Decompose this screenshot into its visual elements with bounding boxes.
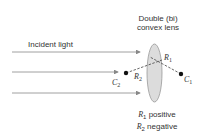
caption-line-2: R2 negative (124, 122, 190, 134)
title-line-1: Double (bi) (128, 14, 188, 23)
c1-label: C1 (184, 75, 192, 87)
c2-point (124, 71, 128, 75)
lens-diagram: Double (bi) convex lens Incident light R… (0, 0, 204, 140)
sign-caption: R1 positive R2 negative (124, 110, 190, 134)
r1-label: R1 (164, 53, 172, 65)
incident-light-label: Incident light (28, 40, 73, 49)
r2-label: R2 (134, 72, 142, 84)
caption-line-1: R1 positive (124, 110, 190, 122)
title-line-2: convex lens (128, 23, 188, 32)
c1-point (179, 72, 183, 76)
c2-label: C2 (112, 78, 120, 90)
lens-title: Double (bi) convex lens (128, 14, 188, 32)
lens-shape (147, 44, 162, 102)
incident-rays (12, 52, 140, 93)
